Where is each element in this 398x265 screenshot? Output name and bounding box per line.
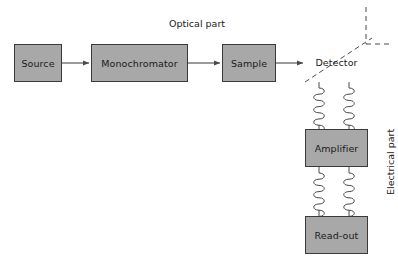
instrument-block-diagram: Optical part Electrical part Source Mono… xyxy=(0,0,398,265)
node-amplifier-label: Amplifier xyxy=(315,143,359,154)
node-detector-label: Detector xyxy=(315,57,357,68)
node-readout-label: Read-out xyxy=(315,230,359,241)
node-detector[interactable]: Detector xyxy=(305,42,368,82)
coil-detector-to-amplifier-left xyxy=(314,82,325,131)
node-source[interactable]: Source xyxy=(14,44,62,82)
node-monochromator[interactable]: Monochromator xyxy=(91,44,188,82)
node-sample-label: Sample xyxy=(231,58,267,69)
coil-detector-to-amplifier-right xyxy=(344,82,355,131)
coil-amplifier-to-readout-left xyxy=(314,167,325,216)
node-monochromator-label: Monochromator xyxy=(101,58,177,69)
node-amplifier[interactable]: Amplifier xyxy=(305,129,368,167)
optical-part-label: Optical part xyxy=(169,18,225,29)
node-sample[interactable]: Sample xyxy=(222,44,276,82)
node-readout[interactable]: Read-out xyxy=(305,216,368,254)
coil-amplifier-to-readout-right xyxy=(344,167,355,216)
electrical-part-label: Electrical part xyxy=(385,129,396,195)
node-source-label: Source xyxy=(21,58,54,69)
